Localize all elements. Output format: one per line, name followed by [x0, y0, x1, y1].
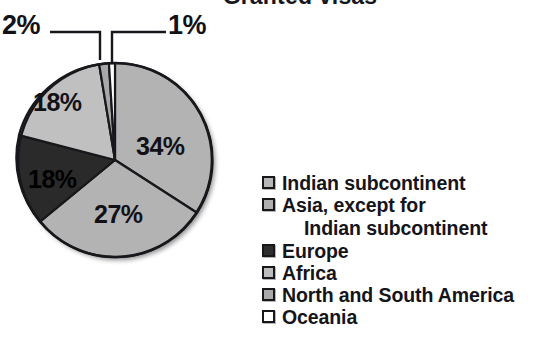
- pie-chart-figure: Granted visas: [0, 0, 559, 362]
- legend-label: Indian subcontinent: [282, 172, 465, 194]
- callout-label-north-and-south-america: 2%: [2, 10, 40, 41]
- legend-item-indian-subcontinent[interactable]: Indian subcontinent: [262, 172, 557, 194]
- slice-value-africa: 18%: [33, 88, 82, 117]
- legend-item-europe[interactable]: Europe: [262, 240, 557, 262]
- legend-swatch-icon: [262, 266, 275, 279]
- legend: Indian subcontinent Asia, except for Ind…: [262, 172, 557, 328]
- slice-value-europe: 18%: [28, 165, 77, 194]
- legend-label: Europe: [282, 240, 349, 262]
- legend-swatch-icon: [262, 198, 275, 211]
- legend-swatch-icon: [262, 244, 275, 257]
- legend-label-continuation: Indian subcontinent: [262, 216, 487, 240]
- legend-label: Asia, except for: [282, 194, 426, 216]
- slice-value-indian-subcontinent: 34%: [136, 132, 185, 161]
- legend-label: Oceania: [282, 306, 357, 328]
- legend-item-africa[interactable]: Africa: [262, 262, 557, 284]
- slice-value-asia: 27%: [94, 200, 143, 229]
- legend-item-north-and-south-america[interactable]: North and South America: [262, 284, 557, 306]
- legend-item-asia-continuation: Indian subcontinent: [262, 216, 557, 240]
- leader-line-north-and-south-america: [50, 32, 100, 60]
- legend-label: North and South America: [282, 284, 514, 306]
- legend-swatch-icon: [262, 176, 275, 189]
- leader-line-oceania: [112, 32, 166, 62]
- legend-swatch-icon: [262, 310, 275, 323]
- legend-item-asia[interactable]: Asia, except for: [262, 194, 557, 216]
- legend-item-oceania[interactable]: Oceania: [262, 306, 557, 328]
- legend-swatch-icon: [262, 288, 275, 301]
- callout-label-oceania: 1%: [168, 10, 206, 41]
- legend-label: Africa: [282, 262, 337, 284]
